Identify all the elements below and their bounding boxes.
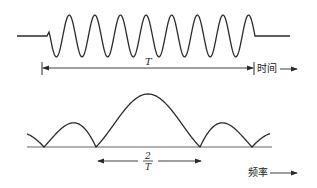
- bandwidth-denominator: T: [145, 162, 152, 172]
- sinc-spectrum-curve: [27, 94, 270, 147]
- frequency-domain-panel: 2 T 频率: [27, 94, 297, 178]
- duration-label: T: [145, 56, 153, 67]
- time-axis-label: 时间: [257, 62, 277, 74]
- time-domain-panel: T 时间: [17, 15, 297, 75]
- tone-burst-waveform: [17, 15, 290, 57]
- frequency-axis-label: 频率: [248, 166, 268, 178]
- diagram-canvas: T 时间 2 T 频率: [0, 0, 317, 188]
- bandwidth-numerator: 2: [144, 151, 151, 161]
